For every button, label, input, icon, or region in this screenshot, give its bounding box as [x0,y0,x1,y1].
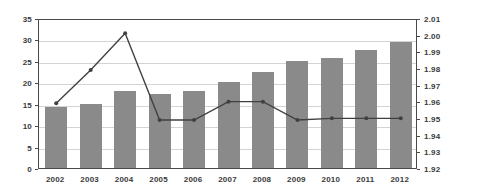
y-axis-left-tick-label: 20 [4,79,32,88]
y-axis-right-tick-label: 2.01 [424,15,440,24]
line-data-point [123,31,127,35]
x-axis-tick-label: 2004 [115,175,134,184]
y-axis-left-tick-label: 0 [4,165,32,174]
y-axis-left-tick-label: 5 [4,143,32,152]
line-data-point [158,118,162,122]
x-axis-tick-label: 2009 [287,175,306,184]
x-axis-tick-label: 2006 [184,175,203,184]
y-axis-right-tick-label: 1.99 [424,48,440,57]
line-data-point [227,100,231,104]
y-axis-right-tick-label: 1.94 [424,131,440,140]
y-axis-right-tick-label: 1.92 [424,165,440,174]
y-axis-right-tick-label: 1.98 [424,65,440,74]
y-axis-right-tick-label: 1.96 [424,98,440,107]
x-axis-tick-label: 2010 [322,175,341,184]
line-series [39,20,418,170]
chart-container: 05101520253035 1.921.931.941.951.961.971… [0,0,483,191]
y-axis-right-tick-label: 1.93 [424,148,440,157]
y-axis-left-tick-label: 35 [4,15,32,24]
line-data-point [192,118,196,122]
y-axis-left-tick-label: 10 [4,122,32,131]
x-axis-tick-label: 2003 [80,175,99,184]
line-data-point [89,68,93,72]
y-axis-right-tick-label: 1.95 [424,115,440,124]
x-axis-tick-label: 2007 [218,175,237,184]
x-axis-tick-label: 2012 [390,175,409,184]
x-axis-tick-label: 2008 [253,175,272,184]
line-data-point [54,101,58,105]
line-data-point [261,100,265,104]
y-axis-left-tick-label: 30 [4,36,32,45]
line-data-point [399,116,403,120]
line-data-point [364,116,368,120]
line-path [56,33,401,120]
line-data-point [330,116,334,120]
x-axis-tick-label: 2005 [149,175,168,184]
y-axis-right-tick-label: 2.00 [424,31,440,40]
x-axis-tick-label: 2002 [46,175,65,184]
plot-area [38,19,417,169]
line-data-point [295,118,299,122]
y-axis-left-tick [35,169,38,170]
x-axis-tick-label: 2011 [356,175,374,184]
y-axis-left-tick-label: 15 [4,100,32,109]
y-axis-right-tick-label: 1.97 [424,81,440,90]
y-axis-left-tick-label: 25 [4,57,32,66]
